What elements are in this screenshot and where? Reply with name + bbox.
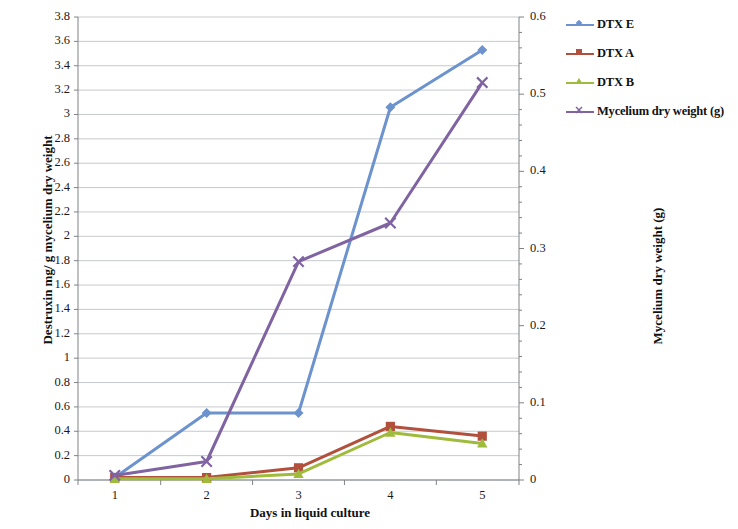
y-tick-label-left: 3.8 (20, 9, 70, 24)
data-point-marker (477, 77, 487, 87)
chart-legend: DTX EDTX ADTX BMycelium dry weight (g) (566, 10, 732, 126)
legend-item-2[interactable]: DTX A (566, 39, 732, 68)
legend-swatch-icon (566, 20, 594, 30)
y-tick-label-left: 2.4 (20, 180, 70, 195)
y-axis-title-right: Mycelium dry weight (g) (650, 131, 666, 421)
y-tick-label-left: 3.4 (20, 58, 70, 73)
y-tick-label-left: 0 (20, 472, 70, 487)
y-tick-label-right: 0.4 (530, 163, 570, 178)
y-tick-label-left: 0.8 (20, 375, 70, 390)
y-tick-label-left: 1.6 (20, 277, 70, 292)
legend-item-label: DTX A (597, 46, 634, 61)
y-tick-label-left: 2.2 (20, 204, 70, 219)
x-tick-label: 2 (192, 488, 222, 503)
y-tick-label-left: 1.2 (20, 326, 70, 341)
y-tick-label-left: 1.4 (20, 301, 70, 316)
y-tick-label-left: 0.2 (20, 448, 70, 463)
y-tick-label-right: 0.6 (530, 9, 570, 24)
y-tick-label-left: 2 (20, 228, 70, 243)
y-tick-label-right: 0.5 (530, 86, 570, 101)
x-axis-title: Days in liquid culture (145, 505, 475, 521)
legend-item-3[interactable]: DTX B (566, 68, 732, 97)
x-tick-label: 3 (284, 488, 314, 503)
y-tick-label-left: 3.2 (20, 82, 70, 97)
legend-swatch-icon (566, 78, 594, 88)
y-tick-label-right: 0.2 (530, 318, 570, 333)
y-tick-label-left: 2.6 (20, 155, 70, 170)
y-tick-label-left: 1 (20, 350, 70, 365)
y-tick-label-left: 3.6 (20, 33, 70, 48)
y-tick-label-left: 0.6 (20, 399, 70, 414)
x-tick-label: 5 (467, 488, 497, 503)
y-tick-label-left: 3 (20, 106, 70, 121)
chart-figure: Destruxin mg/ g mycelium dry weight Myce… (0, 0, 738, 529)
y-tick-label-right: 0.3 (530, 241, 570, 256)
y-tick-label-right: 0.1 (530, 395, 570, 410)
x-tick-label: 4 (375, 488, 405, 503)
legend-item-label: DTX B (597, 75, 634, 90)
y-tick-label-left: 1.8 (20, 253, 70, 268)
legend-item-label: Mycelium dry weight (g) (597, 104, 724, 119)
series-dtx-b (110, 427, 488, 483)
y-tick-label-right: 0 (530, 472, 570, 487)
legend-item-label: DTX E (597, 17, 634, 32)
legend-item-4[interactable]: Mycelium dry weight (g) (566, 97, 732, 126)
x-tick-label: 1 (100, 488, 130, 503)
legend-swatch-icon (566, 49, 594, 59)
y-tick-label-left: 2.8 (20, 131, 70, 146)
legend-item-1[interactable]: DTX E (566, 10, 732, 39)
series-mycelium-dry-weight-g (110, 77, 488, 480)
data-point-marker (294, 408, 304, 418)
legend-swatch-icon (566, 107, 594, 117)
y-tick-label-left: 0.4 (20, 423, 70, 438)
